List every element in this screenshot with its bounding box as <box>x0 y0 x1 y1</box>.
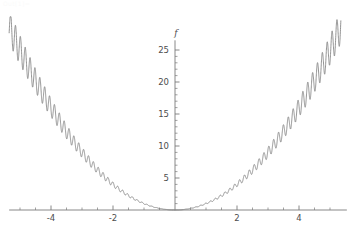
svg-text:-2: -2 <box>109 213 117 223</box>
svg-text:10: 10 <box>158 141 169 151</box>
svg-text:25: 25 <box>158 45 169 55</box>
plot-root: Out[1]= -4-224 510152025 x f <box>0 0 349 238</box>
svg-text:2: 2 <box>234 213 239 223</box>
svg-text:4: 4 <box>296 213 301 223</box>
notebook-out-marker: Out[1]= <box>3 0 30 7</box>
svg-text:-4: -4 <box>47 213 55 223</box>
x-axis-tick-labels: -4-224 <box>47 213 302 223</box>
svg-text:15: 15 <box>158 109 169 119</box>
plot-canvas: -4-224 510152025 x f <box>0 0 349 238</box>
svg-text:5: 5 <box>164 173 169 183</box>
y-axis-label: f <box>173 28 179 38</box>
svg-text:20: 20 <box>158 77 169 87</box>
y-axis-tick-labels: 510152025 <box>158 45 169 183</box>
